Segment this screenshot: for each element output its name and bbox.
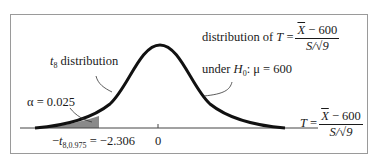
t8-distribution-label: t8 distribution [50, 55, 118, 70]
alpha-label: α = 0.025 [27, 96, 75, 109]
axis-T-label: T =X − 600S/√9 [300, 110, 363, 138]
distribution-of-T-label: distribution of T =X − 600S/√9 [202, 24, 339, 52]
critical-value-label: −t8,0.975 = −2.306 [52, 135, 135, 150]
leader-under-h0 [204, 82, 232, 96]
leader-t8 [96, 76, 112, 92]
zero-tick-label: 0 [155, 135, 161, 148]
under-h0-label: under H0: μ = 600 [202, 63, 292, 78]
